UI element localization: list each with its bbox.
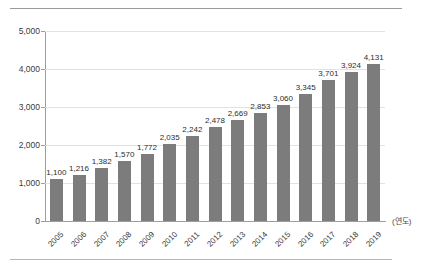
bar-series: 1,1001,2161,3821,5701,7722,0352,2422,478… [45, 31, 385, 221]
bar-slot: 1,772 [141, 31, 154, 221]
bar[interactable] [322, 80, 335, 221]
y-axis-tick-label: 0 [0, 216, 40, 226]
bar-slot: 1,570 [118, 31, 131, 221]
x-axis-tick-label: 2018 [341, 230, 360, 249]
bottom-divider [10, 259, 392, 260]
bar-value-label: 1,382 [92, 157, 112, 166]
bar[interactable] [163, 144, 176, 221]
x-axis-tick-label: 2019 [364, 230, 383, 249]
bar-value-label: 2,669 [228, 109, 248, 118]
bar-slot: 3,060 [277, 31, 290, 221]
x-axis-tick-label: 2017 [319, 230, 338, 249]
bar-value-label: 1,772 [137, 143, 157, 152]
bar[interactable] [118, 161, 131, 221]
x-axis-tick-label: 2013 [228, 230, 247, 249]
y-axis-tick-label: 1,000 [0, 178, 40, 188]
x-axis-tick-label: 2007 [92, 230, 111, 249]
bar-value-label: 1,216 [69, 164, 89, 173]
bar-value-label: 3,924 [341, 61, 361, 70]
x-axis-tick-label: 2009 [137, 230, 156, 249]
bar-value-label: 3,345 [296, 83, 316, 92]
bar-slot: 3,701 [322, 31, 335, 221]
bar-slot: 1,100 [50, 31, 63, 221]
chart-screenshot: 1,1001,2161,3821,5701,7722,0352,2422,478… [0, 0, 424, 265]
x-axis-tick-label: 2012 [205, 230, 224, 249]
bar-slot: 1,382 [95, 31, 108, 221]
bar[interactable] [345, 72, 358, 221]
x-axis-unit-label: (연도) [392, 215, 411, 226]
x-axis-tick-label: 2014 [251, 230, 270, 249]
bar-slot: 2,853 [254, 31, 267, 221]
bar[interactable] [50, 179, 63, 221]
bar-value-label: 3,701 [318, 69, 338, 78]
y-axis-tick-label: 2,000 [0, 140, 40, 150]
bar[interactable] [367, 64, 380, 221]
bar[interactable] [277, 105, 290, 221]
x-axis-tick-label: 2006 [69, 230, 88, 249]
bar[interactable] [141, 154, 154, 221]
bar[interactable] [209, 127, 222, 221]
bar-slot: 2,669 [231, 31, 244, 221]
bar-slot: 3,924 [345, 31, 358, 221]
bar[interactable] [186, 136, 199, 221]
bar-value-label: 3,060 [273, 94, 293, 103]
bar-slot: 2,035 [163, 31, 176, 221]
bar-slot: 1,216 [73, 31, 86, 221]
x-axis-tick-label: 2005 [47, 230, 66, 249]
bar-value-label: 4,131 [364, 53, 384, 62]
x-axis-tick-label: 2016 [296, 230, 315, 249]
bar-slot: 2,478 [209, 31, 222, 221]
top-divider [10, 8, 402, 9]
bar-slot: 2,242 [186, 31, 199, 221]
bar-slot: 3,345 [299, 31, 312, 221]
bar-value-label: 1,100 [46, 168, 66, 177]
x-axis-tick-label: 2008 [115, 230, 134, 249]
x-axis-tick-label: 2010 [160, 230, 179, 249]
y-axis-tick-label: 4,000 [0, 64, 40, 74]
bar-slot: 4,131 [367, 31, 380, 221]
y-axis-tick-label: 3,000 [0, 102, 40, 112]
bar-value-label: 2,853 [250, 102, 270, 111]
bar-value-label: 2,242 [182, 125, 202, 134]
bar[interactable] [299, 94, 312, 221]
bar-value-label: 1,570 [114, 150, 134, 159]
bar[interactable] [254, 113, 267, 221]
y-axis-tick-label: 5,000 [0, 26, 40, 36]
x-axis-tick-label: 2011 [183, 230, 202, 249]
bar[interactable] [73, 175, 86, 221]
x-axis-tick-label: 2015 [273, 230, 292, 249]
bar[interactable] [231, 120, 244, 221]
bar-value-label: 2,478 [205, 116, 225, 125]
bar[interactable] [95, 168, 108, 221]
bar-value-label: 2,035 [160, 133, 180, 142]
